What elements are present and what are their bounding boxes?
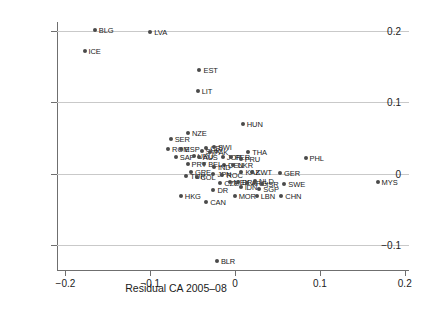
scatter-chart-figure: Change in CA balance, 2010 vs 2005–08 Re… — [0, 0, 435, 319]
data-point-label: MYS — [382, 178, 398, 187]
x-tick-mark — [320, 271, 321, 276]
data-point-label: HUN — [247, 120, 263, 129]
data-point — [211, 172, 215, 176]
x-tick-mark — [235, 271, 236, 276]
data-point — [257, 187, 261, 191]
x-tick-label: 0.1 — [313, 278, 327, 289]
x-tick-label: 0.2 — [398, 278, 412, 289]
data-point — [204, 200, 208, 204]
data-point-label: NZE — [192, 129, 207, 138]
data-point — [239, 185, 243, 189]
data-point-label: BLR — [221, 256, 235, 265]
x-tick-label: 0 — [232, 278, 238, 289]
data-point — [202, 162, 206, 166]
x-tick-mark — [65, 271, 66, 276]
data-point-label: SER — [175, 135, 190, 144]
data-point — [220, 173, 224, 177]
data-point — [282, 182, 286, 186]
data-point — [83, 49, 87, 53]
data-point — [186, 162, 190, 166]
data-point — [148, 30, 152, 34]
data-point — [278, 171, 282, 175]
data-point-label: SWE — [288, 180, 305, 189]
data-point — [179, 194, 183, 198]
data-point — [212, 165, 216, 169]
data-point — [376, 180, 380, 184]
data-point-label: LVA — [154, 27, 167, 36]
data-point — [279, 194, 283, 198]
data-point-label: MOR — [239, 192, 256, 201]
data-point — [174, 155, 178, 159]
data-point-label: PHL — [310, 154, 324, 163]
data-point-label: IDN — [245, 183, 258, 192]
data-point — [255, 194, 259, 198]
data-point-label: ICE — [89, 46, 101, 55]
data-point — [192, 154, 196, 158]
data-point — [231, 163, 235, 167]
data-point — [250, 170, 254, 174]
data-point — [169, 137, 173, 141]
data-point-label: GER — [284, 168, 300, 177]
data-point-label: BLG — [99, 26, 114, 35]
data-point-label: LBN — [261, 192, 275, 201]
data-point — [228, 180, 232, 184]
x-tick-mark — [150, 271, 151, 276]
data-point — [241, 122, 245, 126]
data-point — [236, 180, 240, 184]
data-point — [196, 89, 200, 93]
data-point — [211, 188, 215, 192]
y-tick-label: −0.1 — [381, 239, 401, 250]
data-point-label: KWT — [256, 168, 272, 177]
data-point-label: EST — [203, 65, 217, 74]
y-axis-line — [57, 22, 58, 270]
y-tick-label: 0.1 — [387, 97, 401, 108]
y-tick-mark — [51, 102, 57, 103]
y-tick-mark — [51, 245, 57, 246]
data-point — [304, 156, 308, 160]
data-point-label: CHN — [285, 192, 301, 201]
gridline-y — [57, 245, 409, 246]
data-point-label: DR — [217, 185, 228, 194]
data-point — [215, 259, 219, 263]
data-point-label: HKG — [185, 192, 201, 201]
data-point — [184, 174, 188, 178]
data-point — [195, 175, 199, 179]
data-point — [233, 194, 237, 198]
x-tick-mark — [405, 271, 406, 276]
data-point — [179, 147, 183, 151]
y-tick-mark — [51, 174, 57, 175]
data-point-label: LIT — [202, 86, 213, 95]
x-axis-line — [57, 270, 409, 271]
data-point — [239, 170, 243, 174]
data-point-label: CAN — [210, 198, 226, 207]
data-point — [93, 28, 97, 32]
plot-area: 0.20.10−0.1 −0.2−0.100.10.2 BLGLVAICEEST… — [57, 22, 409, 270]
x-tick-label: −0.1 — [140, 278, 160, 289]
gridline-y — [57, 102, 409, 103]
data-point — [197, 68, 201, 72]
y-tick-mark — [51, 31, 57, 32]
data-point — [166, 147, 170, 151]
y-tick-label: 0.2 — [387, 25, 401, 36]
data-point — [229, 155, 233, 159]
x-tick-label: −0.2 — [56, 278, 76, 289]
